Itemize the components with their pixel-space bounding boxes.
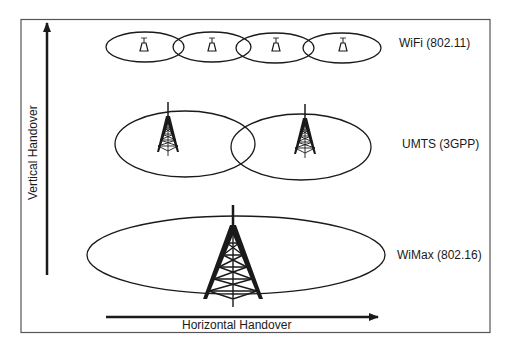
cell-tower-icon (157, 102, 316, 158)
horizontal-handover-label: Horizontal Handover (182, 318, 291, 332)
access-point-icon (140, 38, 347, 51)
diagram-canvas (0, 0, 507, 353)
handover-diagram: WiFi (802.11) UMTS (3GPP) WiMax (802.16)… (0, 0, 507, 353)
vertical-handover-label: Vertical Handover (26, 105, 40, 200)
layer-label-wimax: WiMax (802.16) (397, 248, 482, 262)
layer-label-wifi: WiFi (802.11) (399, 36, 470, 50)
umts-coverage-cells (115, 111, 371, 180)
layer-label-umts: UMTS (3GPP) (402, 137, 479, 151)
large-cell-tower-icon (203, 205, 263, 307)
